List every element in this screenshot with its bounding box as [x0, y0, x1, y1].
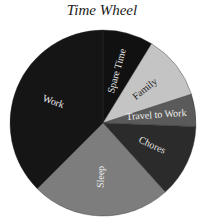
pie-chart: Spare TimeFamilyTravel to WorkChoresSlee… [0, 0, 204, 224]
slice-label: Sleep [95, 166, 107, 188]
